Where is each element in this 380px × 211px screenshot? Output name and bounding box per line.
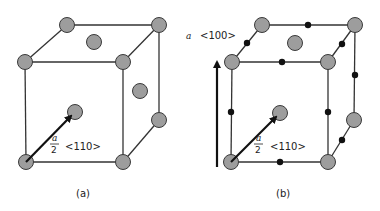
edge-center-dot-b (228, 109, 234, 115)
atom-corner-b (255, 18, 270, 33)
edge-center-dot-b (352, 72, 358, 78)
figure-b: a <100> a 2 <110> (b) (186, 18, 363, 200)
edge-center-dot-b (339, 137, 345, 143)
edge-center-dot-b (325, 109, 331, 115)
caption-b: (b) (276, 188, 290, 199)
atom-corner-a (152, 18, 167, 33)
edge-center-dot-b (339, 41, 345, 47)
edge-center-dot-b (277, 159, 283, 165)
fraction-numerator-a: a (52, 133, 57, 143)
direction-label-b: <110> (270, 141, 306, 152)
atom-corner-a (18, 55, 33, 70)
burgers-vector-arrow-b (231, 117, 276, 162)
burgers-vector-arrow-a (26, 116, 71, 162)
lattice-vector-prefix: a (186, 31, 191, 41)
caption-a: (a) (76, 188, 90, 199)
atom-corner-b (321, 55, 336, 70)
fraction-numerator-b: a (256, 133, 261, 143)
atom-top-face-center-b (288, 36, 303, 51)
atom-corner-b (348, 18, 363, 33)
atom-corner-a (60, 18, 75, 33)
direction-label-a: <110> (65, 141, 101, 152)
fraction-denominator-b: 2 (255, 145, 261, 155)
atom-corner-b (225, 55, 240, 70)
atom-corner-b (347, 113, 362, 128)
atom-right-face-center-a (133, 84, 148, 99)
atom-corner-a (116, 155, 131, 170)
fcc-lattice-diagram: a 2 <110> (a) (0, 0, 380, 211)
atom-corner-a (152, 113, 167, 128)
figure-a: a 2 <110> (a) (18, 18, 167, 200)
fraction-denominator-a: 2 (51, 145, 57, 155)
atom-corner-a (116, 55, 131, 70)
edge-center-dot-b (279, 59, 285, 65)
edge-center-dot-b (244, 40, 250, 46)
atom-top-face-center-a (87, 35, 102, 50)
edge-center-dot-b (305, 22, 311, 28)
lattice-vector-direction: <100> (200, 30, 236, 41)
atom-corner-b (321, 155, 336, 170)
